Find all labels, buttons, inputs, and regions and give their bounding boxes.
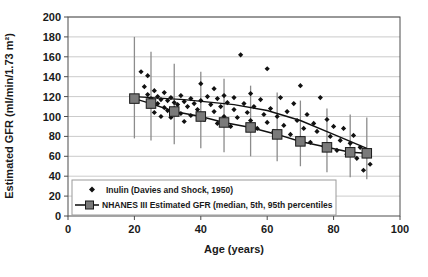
legend-label-nhanes: NHANES III Estimated GFR (median, 5th, 9… (102, 200, 333, 210)
square-marker-icon (86, 201, 94, 209)
y-tick-label: 180 (43, 31, 61, 43)
x-tick-label: 80 (327, 223, 339, 235)
median-square-marker (196, 112, 206, 122)
x-tick-label: 60 (261, 223, 273, 235)
median-square-marker (130, 94, 140, 104)
median-square-marker (246, 123, 256, 133)
median-square-marker (296, 137, 306, 147)
y-tick-label: 120 (43, 91, 61, 103)
y-tick-label: 60 (49, 150, 61, 162)
chart-figure: 020406080100 020406080100120140160180200… (0, 0, 428, 277)
median-square-marker (272, 130, 282, 140)
y-tick-label: 40 (49, 170, 61, 182)
y-tick-label: 160 (43, 51, 61, 63)
y-tick-label: 20 (49, 190, 61, 202)
x-tick-label: 100 (391, 223, 409, 235)
y-tick-label: 140 (43, 71, 61, 83)
x-axis-title: Age (years) (204, 243, 264, 255)
median-square-marker (362, 149, 372, 159)
legend-item-nhanes: NHANES III Estimated GFR (median, 5th, 9… (75, 200, 333, 210)
y-tick-label: 100 (43, 111, 61, 123)
median-square-marker (219, 118, 229, 128)
y-axis-title: Estimated GFR (ml/min/1.73 m²) (3, 33, 15, 199)
median-square-marker (345, 148, 355, 158)
y-tick-label: 80 (49, 130, 61, 142)
chart-legend: Inulin (Davies and Shock, 1950) NHANES I… (72, 180, 336, 215)
median-square-marker (322, 143, 332, 153)
median-square-marker (146, 99, 156, 109)
x-tick-label: 20 (128, 223, 140, 235)
x-tick-label: 40 (195, 223, 207, 235)
y-tick-label: 200 (43, 11, 61, 23)
legend-label-inulin: Inulin (Davies and Shock, 1950) (106, 185, 233, 195)
gfr-vs-age-scatter-chart: 020406080100 020406080100120140160180200… (0, 0, 428, 277)
median-square-marker (169, 107, 179, 117)
y-tick-label: 0 (55, 210, 61, 222)
legend-item-inulin: Inulin (Davies and Shock, 1950) (89, 185, 233, 195)
x-tick-label: 0 (65, 223, 71, 235)
chart-background (0, 0, 428, 277)
